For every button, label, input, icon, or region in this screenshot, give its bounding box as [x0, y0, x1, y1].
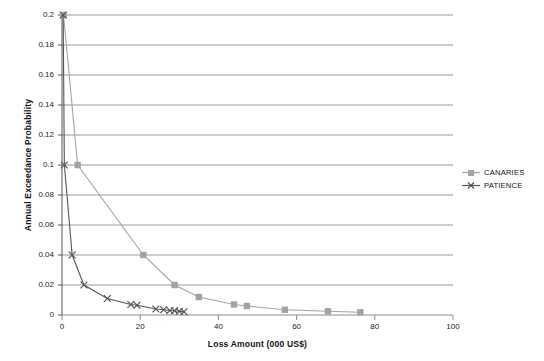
- y-tick-label: 0.18: [14, 40, 54, 49]
- data-point-square: [282, 307, 288, 313]
- x-tick-label: 0: [42, 322, 82, 331]
- legend-marker-square-icon: [462, 167, 480, 178]
- x-axis-title: Loss Amount (000 US$): [62, 339, 453, 349]
- y-tick-label: 0.02: [14, 280, 54, 289]
- y-tick-label: 0.16: [14, 70, 54, 79]
- y-tick-label: 0.06: [14, 220, 54, 229]
- legend-marker-x-icon: [462, 180, 480, 191]
- x-tick-label: 80: [355, 322, 395, 331]
- y-tick-label: 0.12: [14, 130, 54, 139]
- data-point-square: [244, 303, 250, 309]
- chart-legend: CANARIES PATIENCE: [462, 166, 524, 192]
- x-tick-label: 100: [433, 322, 473, 331]
- y-tick-label: 0.14: [14, 100, 54, 109]
- series-canaries: [60, 12, 363, 316]
- y-tick-label: 0.04: [14, 250, 54, 259]
- y-tick-label: 0.2: [14, 10, 54, 19]
- x-tick-label: 60: [277, 322, 317, 331]
- data-point-square: [196, 294, 202, 300]
- exceedance-probability-chart: Annual Exceedance Probability Loss Amoun…: [0, 0, 544, 361]
- data-point-square: [171, 282, 177, 288]
- series-line: [63, 15, 184, 312]
- data-point-square: [231, 301, 237, 307]
- legend-item-patience[interactable]: PATIENCE: [462, 179, 524, 192]
- data-point-x: [104, 295, 111, 302]
- series-line: [64, 15, 361, 312]
- x-tick-label: 40: [198, 322, 238, 331]
- data-point-square: [74, 162, 80, 168]
- data-point-square: [357, 309, 363, 315]
- legend-label-canaries: CANARIES: [484, 168, 524, 177]
- y-tick-label: 0: [14, 310, 54, 319]
- x-tick-label: 20: [120, 322, 160, 331]
- y-tick-label: 0.08: [14, 190, 54, 199]
- data-point-square: [325, 308, 331, 314]
- y-tick-label: 0.1: [14, 160, 54, 169]
- legend-label-patience: PATIENCE: [484, 181, 522, 190]
- legend-item-canaries[interactable]: CANARIES: [462, 166, 524, 179]
- data-point-square: [140, 252, 146, 258]
